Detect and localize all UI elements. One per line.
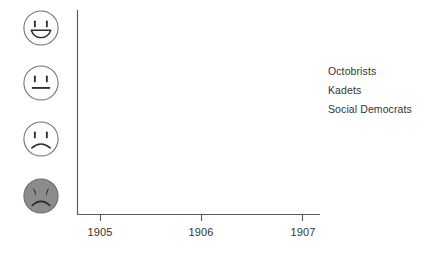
sad-face-icon (22, 120, 60, 158)
chart-container: 1905 1906 1907 Octobrists Kadets Social … (0, 0, 443, 259)
legend-item-octobrists: Octobrists (328, 62, 440, 81)
legend-item-social-democrats: Social Democrats (328, 100, 440, 119)
angry-face-icon (22, 177, 60, 215)
legend-item-kadets: Kadets (328, 81, 440, 100)
x-tick-label-1907: 1907 (283, 226, 323, 238)
mood-scale-axis (22, 0, 66, 259)
x-tick-label-1906: 1906 (181, 226, 221, 238)
chart-axes (0, 0, 443, 259)
happy-face-icon (22, 9, 60, 47)
chart-legend: Octobrists Kadets Social Democrats (328, 62, 440, 119)
neutral-face-icon (22, 64, 60, 102)
x-tick-label-1905: 1905 (80, 226, 120, 238)
